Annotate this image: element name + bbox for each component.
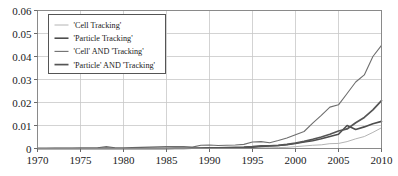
y-tick-label: 0.04 (12, 51, 32, 63)
legend-label-3: 'Particle' AND 'Tracking' (74, 61, 156, 70)
x-tick-label: 2010 (371, 154, 394, 166)
legend-label-1: 'Particle Tracking' (74, 34, 134, 43)
x-tick-label: 1970 (27, 154, 50, 166)
x-tick-label: 1975 (70, 154, 93, 166)
x-tick-label: 1980 (113, 154, 136, 166)
y-tick-label: 0.01 (12, 120, 31, 132)
line-chart: 00.010.020.030.040.050.06 19701975198019… (0, 0, 398, 176)
legend-label-0: 'Cell Tracking' (74, 21, 122, 30)
chart-legend: 'Cell Tracking''Particle Tracking''Cell'… (49, 15, 166, 74)
legend-label-2: 'Cell' AND 'Tracking' (74, 47, 145, 56)
x-tick-label: 2000 (285, 154, 308, 166)
y-axis-ticks: 00.010.020.030.040.050.06 (12, 5, 37, 155)
y-tick-label: 0.05 (12, 28, 32, 40)
x-tick-label: 2005 (328, 154, 351, 166)
x-tick-label: 1985 (156, 154, 179, 166)
figure-container: 00.010.020.030.040.050.06 19701975198019… (0, 0, 398, 176)
y-tick-label: 0.06 (12, 5, 32, 17)
y-tick-label: 0.02 (12, 97, 31, 109)
x-tick-label: 1990 (199, 154, 222, 166)
x-tick-label: 1995 (242, 154, 265, 166)
y-tick-label: 0.03 (12, 74, 32, 86)
x-axis-ticks: 197019751980198519901995200020052010 (27, 149, 394, 166)
chart-canvas: 00.010.020.030.040.050.06 19701975198019… (0, 0, 398, 176)
